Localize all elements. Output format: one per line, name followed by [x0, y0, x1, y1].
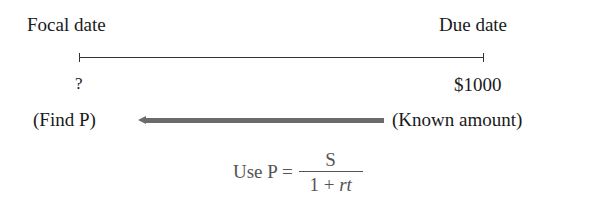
- timeline: [79, 53, 484, 62]
- formula-prefix: Use P =: [233, 161, 293, 183]
- known-amount-label: (Known amount): [392, 110, 522, 129]
- timeline-end-tick: [483, 53, 484, 62]
- formula-denominator: 1 + rt: [309, 172, 351, 194]
- present-value-formula: Use P = S 1 + rt: [233, 150, 363, 194]
- left-arrow-icon: [138, 116, 384, 125]
- known-value: $1000: [454, 75, 502, 94]
- denominator-variable: rt: [339, 174, 352, 195]
- formula-numerator: S: [321, 150, 340, 171]
- unknown-value: ?: [75, 75, 83, 92]
- denominator-prefix: 1 +: [309, 174, 339, 195]
- timeline-start-tick: [79, 53, 80, 62]
- formula-fraction: S 1 + rt: [299, 150, 363, 194]
- due-date-label: Due date: [439, 15, 507, 34]
- focal-date-label: Focal date: [27, 15, 106, 34]
- find-p-label: (Find P): [33, 110, 96, 129]
- timeline-line: [79, 57, 484, 58]
